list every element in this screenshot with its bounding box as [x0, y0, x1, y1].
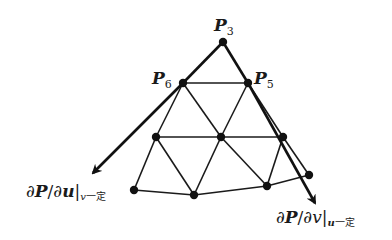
node: [130, 186, 138, 194]
node-p6: [179, 79, 187, 87]
node: [217, 133, 225, 141]
node: [152, 133, 160, 141]
node-p5: [244, 79, 252, 87]
node: [263, 182, 271, 190]
label-du: ∂P/∂u|v一定: [26, 181, 106, 202]
boundary-edges: [183, 42, 248, 83]
label-dv: ∂P/∂v|u一定: [276, 207, 355, 228]
node: [190, 191, 198, 199]
node-p3: [219, 38, 227, 46]
label-p5: P5: [253, 68, 274, 91]
mesh-nodes: [130, 38, 313, 199]
label-p6: P6: [151, 68, 172, 91]
dv-arrow: [248, 83, 315, 203]
du-arrow: [93, 83, 183, 173]
node: [279, 133, 287, 141]
node: [305, 171, 313, 179]
label-p3: P3: [213, 15, 234, 38]
mesh-diagram: P3 P6 P5 ∂P/∂u|v一定 ∂P/∂v|u一定: [0, 0, 392, 240]
